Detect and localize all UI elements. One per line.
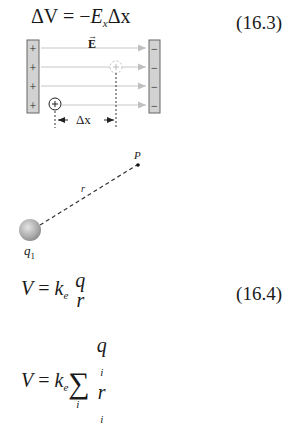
- point-label: P: [134, 149, 141, 161]
- displacement-label: Δx: [76, 112, 91, 128]
- fraction-qi-over-ri: qi ri: [97, 335, 107, 427]
- denominator-r: r: [75, 290, 85, 310]
- sum-index: i: [76, 398, 79, 410]
- plus-sign: +: [28, 59, 38, 78]
- sigma: ∑: [68, 366, 89, 399]
- numerator-q: q: [75, 270, 85, 290]
- distance-label: r: [81, 183, 85, 194]
- minus-signs: − − − −: [149, 40, 160, 116]
- plus-sign: +: [28, 97, 38, 116]
- distance-line: [40, 165, 137, 225]
- v-symbol: V: [21, 369, 33, 391]
- equation-number-16-4: (16.4): [236, 283, 282, 305]
- numerator-q: q: [97, 335, 107, 355]
- plus-signs: + + + +: [28, 40, 38, 116]
- equation-superposition: V = ke∑i qi ri: [21, 335, 107, 427]
- equation-16-4: V = ke q r: [21, 270, 85, 310]
- point-p: [136, 163, 140, 167]
- subscript-e: e: [63, 289, 68, 301]
- equals: =: [38, 277, 49, 299]
- charge-sphere: [19, 219, 41, 241]
- minus-sign: −: [149, 97, 160, 116]
- equals: =: [38, 369, 49, 391]
- denominator-r: r: [97, 382, 107, 402]
- denominator-sub: i: [100, 413, 103, 425]
- charge-subscript: 1: [31, 251, 36, 261]
- minus-sign: −: [149, 78, 160, 97]
- charge-label: q1: [24, 243, 35, 261]
- plus-sign: +: [28, 40, 38, 59]
- v-symbol: V: [21, 277, 33, 299]
- summation: ∑i: [68, 366, 89, 399]
- plus-sign: +: [28, 78, 38, 97]
- field-lines: [41, 48, 146, 105]
- field-vector-label: → E: [88, 37, 96, 52]
- fraction-q-over-r: q r: [75, 270, 85, 310]
- numerator-sub: i: [100, 366, 103, 378]
- minus-sign: −: [149, 40, 160, 59]
- minus-sign: −: [149, 59, 160, 78]
